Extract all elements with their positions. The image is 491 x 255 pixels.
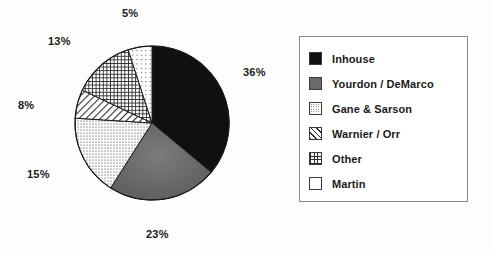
legend-item-other: Other xyxy=(309,146,467,171)
legend-swatch-icon-yourdon-demarco xyxy=(309,77,322,90)
legend-item-martin: Martin xyxy=(309,171,467,196)
legend-item-gane-sarson: Gane & Sarson xyxy=(309,96,467,121)
pie-chart-figure: 36% 23% 15% 8% 13% 5% Inhouse Yourdon / … xyxy=(0,0,491,255)
legend-label-inhouse: Inhouse xyxy=(332,53,375,65)
legend-swatch-icon-martin xyxy=(309,177,322,190)
legend-swatch-icon-gane-sarson xyxy=(309,102,322,115)
pie-label-yourdon-demarco: 23% xyxy=(146,228,169,240)
legend-label-yourdon-demarco: Yourdon / DeMarco xyxy=(332,78,434,90)
legend-swatch-icon-inhouse xyxy=(309,52,322,65)
legend-label-martin: Martin xyxy=(332,178,366,190)
legend-label-warnier-orr: Warnier / Orr xyxy=(332,128,400,140)
legend-label-gane-sarson: Gane & Sarson xyxy=(332,103,412,115)
legend-swatch-icon-warnier-orr xyxy=(309,127,322,140)
legend-swatch-icon-other xyxy=(309,152,322,165)
legend-item-inhouse: Inhouse xyxy=(309,46,467,71)
pie-label-martin: 5% xyxy=(122,7,138,19)
legend-item-warnier-orr: Warnier / Orr xyxy=(309,121,467,146)
pie-label-other: 13% xyxy=(48,35,71,47)
pie-svg xyxy=(74,45,230,201)
pie-label-inhouse: 36% xyxy=(243,66,266,78)
pie-chart xyxy=(74,45,230,201)
pie-label-gane-sarson: 15% xyxy=(27,168,50,180)
pie-label-warnier-orr: 8% xyxy=(18,99,34,111)
legend-item-yourdon-demarco: Yourdon / DeMarco xyxy=(309,71,467,96)
chart-legend: Inhouse Yourdon / DeMarco Gane & Sarson … xyxy=(299,36,468,202)
legend-label-other: Other xyxy=(332,153,362,165)
